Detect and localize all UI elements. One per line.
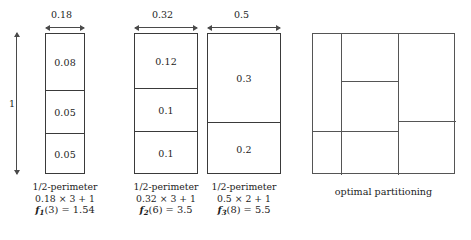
panel-3-caption-line-3: f3(8) = 5.5 [184, 204, 304, 218]
panel-3-caption-line-2: 0.5 × 2 + 1 [184, 193, 304, 205]
optimal-region-right-top [399, 34, 456, 122]
height-dimension-arrow [16, 33, 17, 174]
height-dimension-label: 1 [9, 98, 15, 109]
optimal-region-left-middle [313, 96, 342, 132]
panel-1-width-label: 0.18 [51, 9, 72, 20]
panel-3-caption: 1/2-perimeter 0.5 × 2 + 1 f3(8) = 5.5 [184, 181, 304, 218]
panel-3-f-eq: = 5.5 [244, 204, 271, 215]
panel-2-f-arg: (6) [149, 204, 163, 215]
optimal-region-center-middle [342, 82, 399, 132]
panel-2-cell-3: 0.1 [135, 131, 197, 175]
panel-3-width-arrow [208, 27, 280, 28]
panel-3-caption-line-1: 1/2-perimeter [184, 181, 304, 193]
panel-2-cell-1: 0.12 [135, 34, 197, 88]
panel-2-box: 0.12 0.1 0.1 [134, 33, 198, 174]
optimal-partitioning-caption: optimal partitioning [312, 186, 455, 197]
optimal-region-right-bottom [399, 122, 456, 175]
panel-2-cell-2: 0.1 [135, 88, 197, 131]
panel-3-f-arg: (8) [227, 204, 241, 215]
panel-3-box: 0.3 0.2 [207, 33, 281, 174]
panel-3-width-label: 0.5 [234, 9, 249, 20]
optimal-partitioning-box [312, 33, 455, 174]
panel-1-cell-3: 0.05 [46, 133, 84, 175]
optimal-region-left-top [313, 34, 342, 96]
panel-1-f-eq: = 1.54 [62, 204, 95, 215]
panel-1-f-arg: (3) [44, 204, 58, 215]
panel-1-width-arrow [46, 27, 84, 28]
panel-2-width-label: 0.32 [152, 9, 173, 20]
optimal-region-left-bottom [313, 132, 342, 175]
figure-partitioning-diagram: 1 0.18 0.08 0.05 0.05 1/2-perimeter 0.18… [0, 0, 471, 240]
optimal-region-center-top [342, 34, 399, 82]
optimal-region-center-bottom [342, 132, 399, 175]
panel-1-cell-1: 0.08 [46, 34, 84, 90]
panel-1-cell-2: 0.05 [46, 90, 84, 133]
panel-3-cell-2: 0.2 [208, 122, 280, 175]
panel-3-cell-1: 0.3 [208, 34, 280, 122]
panel-1-box: 0.08 0.05 0.05 [45, 33, 85, 174]
panel-2-width-arrow [135, 27, 197, 28]
